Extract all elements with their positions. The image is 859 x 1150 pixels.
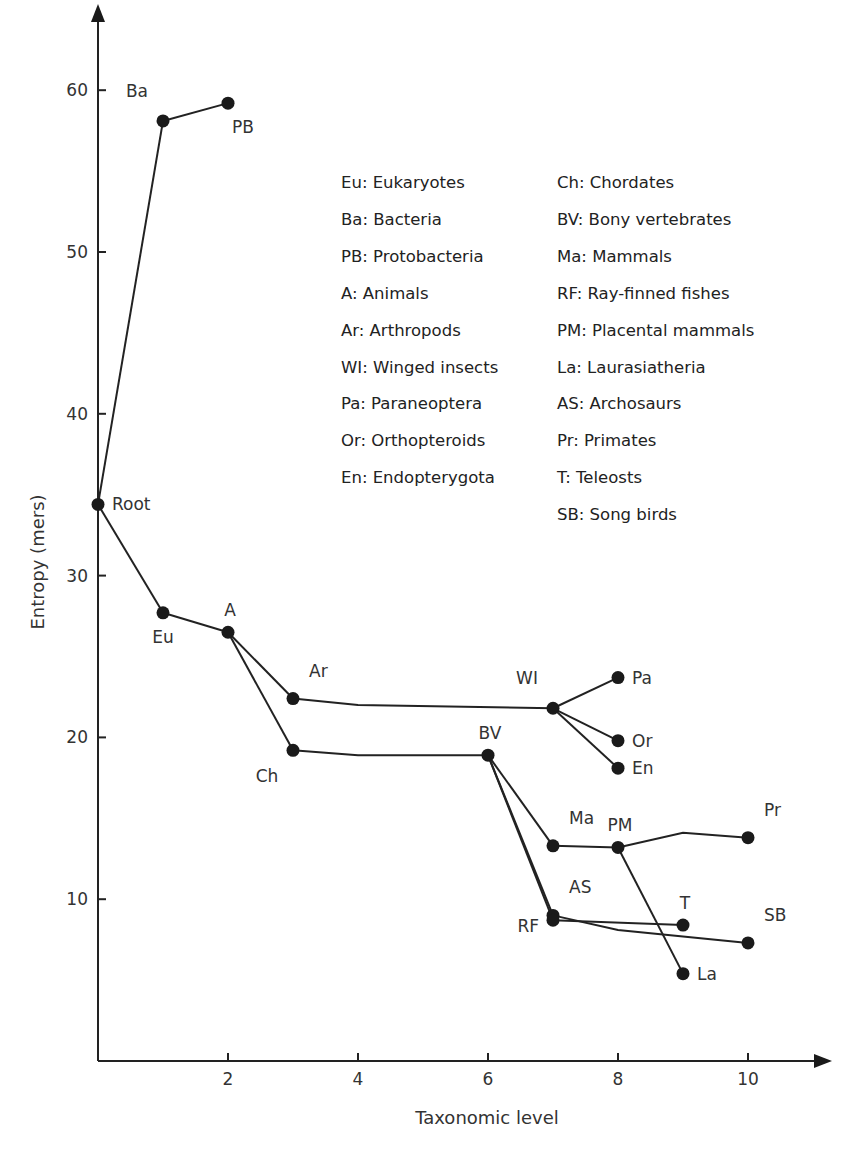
legend-item: A: Animals xyxy=(341,284,429,303)
node-label-Ba: Ba xyxy=(126,81,148,101)
edge-Root-Eu xyxy=(98,504,163,612)
node-Ma xyxy=(547,839,560,852)
legend-item: Ma: Mammals xyxy=(557,247,672,266)
x-tick-label: 6 xyxy=(483,1069,494,1089)
edge-BV-Ma xyxy=(488,755,553,846)
node-A xyxy=(222,626,235,639)
x-tick-label: 10 xyxy=(737,1069,759,1089)
node-label-AS: AS xyxy=(569,877,591,897)
y-tick-label: 30 xyxy=(66,566,88,586)
y-axis-title: Entropy (mers) xyxy=(27,494,48,629)
legend-item: Ba: Bacteria xyxy=(341,210,442,229)
x-tick-label: 8 xyxy=(613,1069,624,1089)
legend-item: PM: Placental mammals xyxy=(557,321,754,340)
x-tick-label: 4 xyxy=(353,1069,364,1089)
edge-PM-La xyxy=(618,847,683,973)
legend-item: WI: Winged insects xyxy=(341,358,498,377)
node-label-T: T xyxy=(679,893,691,913)
node-label-BV: BV xyxy=(479,723,502,743)
y-tick-label: 20 xyxy=(66,727,88,747)
edge-WI-En xyxy=(553,708,618,768)
y-axis-arrow-icon xyxy=(91,4,105,22)
legend: Eu: EukaryotesBa: BacteriaPB: Protobacte… xyxy=(341,173,754,524)
edge-Ar-WI xyxy=(293,699,553,709)
node-label-PM: PM xyxy=(608,815,633,835)
node-label-Ch: Ch xyxy=(256,766,279,786)
node-label-Eu: Eu xyxy=(152,627,174,647)
edge-Ma-PM xyxy=(553,846,618,848)
legend-item: Ar: Arthropods xyxy=(341,321,461,340)
node-label-Ma: Ma xyxy=(569,808,594,828)
node-label-Pr: Pr xyxy=(764,800,781,820)
node-Pr xyxy=(742,831,755,844)
edges xyxy=(98,103,748,973)
y-tick-label: 60 xyxy=(66,80,88,100)
edge-PM-Pr xyxy=(618,833,748,848)
edge-Ch-BV xyxy=(293,750,488,755)
legend-item: Or: Orthopteroids xyxy=(341,431,485,450)
node-Root xyxy=(92,498,105,511)
edge-AS-SB xyxy=(553,915,748,943)
legend-item: En: Endopterygota xyxy=(341,468,495,487)
legend-item: RF: Ray-finned fishes xyxy=(557,284,730,303)
y-tick-label: 10 xyxy=(66,889,88,909)
x-tick-label: 2 xyxy=(223,1069,234,1089)
node-Ar xyxy=(287,692,300,705)
node-En xyxy=(612,762,625,775)
node-Ba xyxy=(157,114,170,127)
legend-item: T: Teleosts xyxy=(556,468,642,487)
edge-WI-Pa xyxy=(553,678,618,709)
node-WI xyxy=(547,702,560,715)
edge-BV-RF xyxy=(488,755,553,920)
node-label-En: En xyxy=(632,758,654,778)
legend-item: Ch: Chordates xyxy=(557,173,674,192)
y-tick-label: 40 xyxy=(66,404,88,424)
node-label-PB: PB xyxy=(232,117,254,137)
node-Pa xyxy=(612,671,625,684)
edge-RF-T xyxy=(553,920,683,925)
node-label-SB: SB xyxy=(764,905,786,925)
node-SB xyxy=(742,936,755,949)
nodes xyxy=(92,97,755,980)
node-label-Or: Or xyxy=(632,731,652,751)
node-PM xyxy=(612,841,625,854)
node-label-Root: Root xyxy=(112,494,151,514)
node-RF xyxy=(547,914,560,927)
node-La xyxy=(677,967,690,980)
node-Eu xyxy=(157,606,170,619)
node-Ch xyxy=(287,744,300,757)
edge-Root-Ba xyxy=(98,121,163,504)
node-label-A: A xyxy=(224,600,236,620)
y-tick-label: 50 xyxy=(66,242,88,262)
node-label-WI: WI xyxy=(516,668,538,688)
node-label-Pa: Pa xyxy=(632,668,652,688)
node-label-La: La xyxy=(697,964,717,984)
legend-item: SB: Song birds xyxy=(557,505,677,524)
edge-Ba-PB xyxy=(163,103,228,121)
node-PB xyxy=(222,97,235,110)
edge-A-Ch xyxy=(228,632,293,750)
node-BV xyxy=(482,749,495,762)
node-label-Ar: Ar xyxy=(309,661,328,681)
x-axis-arrow-icon xyxy=(814,1054,832,1068)
legend-item: AS: Archosaurs xyxy=(557,394,681,413)
edge-WI-Or xyxy=(553,708,618,740)
node-Or xyxy=(612,734,625,747)
node-label-RF: RF xyxy=(517,916,539,936)
edge-A-Ar xyxy=(228,632,293,698)
legend-item: Pa: Paraneoptera xyxy=(341,394,482,413)
taxonomy-entropy-chart: 102030405060246810 RootBaPBEuAArChWIPaOr… xyxy=(0,0,859,1150)
legend-item: Pr: Primates xyxy=(557,431,656,450)
x-axis-title: Taxonomic level xyxy=(414,1107,559,1128)
legend-item: PB: Protobacteria xyxy=(341,247,484,266)
axes: 102030405060246810 xyxy=(66,4,832,1089)
legend-item: La: Laurasiatheria xyxy=(557,358,706,377)
node-T xyxy=(677,919,690,932)
legend-item: BV: Bony vertebrates xyxy=(557,210,731,229)
legend-item: Eu: Eukaryotes xyxy=(341,173,465,192)
